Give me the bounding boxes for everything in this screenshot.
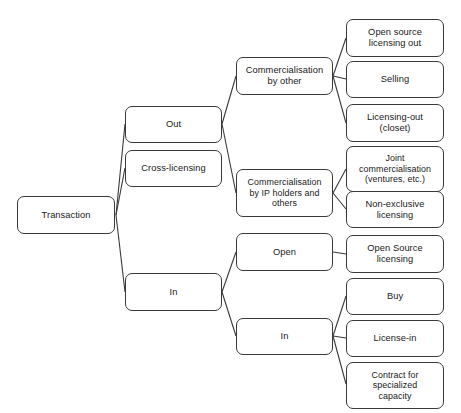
node-in-level1: In (125, 273, 222, 311)
node-label-cross-licensing: Cross-licensing (129, 163, 218, 174)
node-comm-by-ip-holders: Commercialisation by IP holders and othe… (236, 169, 333, 217)
node-selling: Selling (346, 61, 444, 98)
connector-comm-by-ip-holders-to-joint-comm (333, 169, 346, 193)
node-non-exclusive: Non-exclusive licensing (346, 191, 444, 228)
connector-comm-by-other-to-open-source-out (333, 38, 346, 76)
connector-comm-by-ip-holders-to-non-exclusive (333, 193, 346, 209)
node-buy: Buy (346, 278, 444, 315)
node-contract-spec: Contract for specialized capacity (346, 362, 444, 409)
node-label-in-level1: In (129, 287, 218, 298)
node-joint-comm: Joint commercialisation (ventures, etc.) (346, 146, 444, 192)
node-label-contract-spec: Contract for specialized capacity (350, 370, 440, 402)
node-cross-licensing: Cross-licensing (125, 150, 222, 187)
connector-out-to-comm-by-ip-holders (222, 124, 236, 193)
connector-in-level2-to-contract-spec (333, 336, 346, 384)
node-label-joint-comm: Joint commercialisation (ventures, etc.) (350, 153, 440, 185)
node-comm-by-other: Commercialisation by other (236, 57, 333, 95)
node-label-out: Out (129, 119, 218, 130)
connector-transaction-to-cross-licensing (116, 168, 125, 215)
node-in-level2: In (236, 318, 333, 355)
connector-in-level1-to-in-level2 (222, 292, 236, 336)
node-out: Out (125, 106, 222, 143)
connector-transaction-to-out (116, 124, 125, 215)
node-label-open: Open (240, 247, 329, 258)
node-label-buy: Buy (350, 291, 440, 302)
node-open-source-out: Open source licensing out (346, 19, 444, 57)
node-label-licensing-out: Licensing-out (closet) (350, 112, 440, 134)
node-label-open-source-lic: Open Source licensing (350, 243, 440, 265)
node-label-comm-by-other: Commercialisation by other (240, 65, 329, 87)
transaction-taxonomy-diagram: TransactionOutCross-licensingInCommercia… (0, 0, 461, 413)
connector-out-to-comm-by-other (222, 76, 236, 124)
node-license-in: License-in (346, 320, 444, 357)
node-label-transaction: Transaction (21, 210, 111, 221)
connector-comm-by-other-to-licensing-out (333, 76, 346, 123)
node-label-open-source-out: Open source licensing out (350, 27, 440, 49)
node-licensing-out: Licensing-out (closet) (346, 104, 444, 142)
node-transaction: Transaction (17, 196, 115, 234)
node-label-comm-by-ip-holders: Commercialisation by IP holders and othe… (240, 177, 329, 209)
connector-in-level1-to-open (222, 252, 236, 292)
node-label-license-in: License-in (350, 333, 440, 344)
connector-comm-by-other-to-selling (333, 76, 346, 79)
node-open-source-lic: Open Source licensing (346, 235, 444, 273)
node-open: Open (236, 233, 333, 271)
node-label-non-exclusive: Non-exclusive licensing (350, 199, 440, 221)
connector-open-to-open-source-lic (333, 252, 346, 254)
node-label-in-level2: In (240, 331, 329, 342)
connector-transaction-to-in-level1 (116, 215, 125, 292)
connector-in-level2-to-buy (333, 296, 346, 336)
node-label-selling: Selling (350, 74, 440, 85)
connector-in-level2-to-license-in (333, 336, 346, 338)
